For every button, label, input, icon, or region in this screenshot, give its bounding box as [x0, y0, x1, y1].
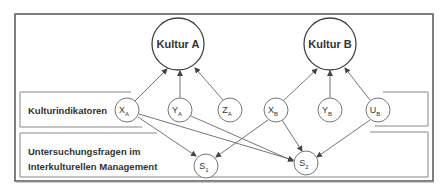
indicator-node-xb: XB: [264, 98, 288, 122]
questions-row-label-line2: Interkulturellen Management: [28, 161, 158, 172]
culture-b-label: Kultur B: [308, 38, 351, 50]
edges-to-culture: [135, 68, 370, 101]
question-node-s2: S2: [294, 151, 318, 175]
culture-node-a: Kultur A: [152, 18, 204, 70]
indicator-node-ub: UB: [366, 98, 390, 122]
questions-row-label-line1: Untersuchungsfragen im: [28, 146, 140, 157]
indicator-node-ya: YA: [168, 98, 192, 122]
indicators-row-label: Kulturindikatoren: [28, 105, 107, 116]
indicator-node-yb: YB: [318, 98, 342, 122]
culture-indicator-diagram: Kultur A Kultur B Kulturindikatoren Unte…: [0, 0, 446, 195]
culture-a-label: Kultur A: [157, 38, 200, 50]
indicator-node-xa: XA: [115, 98, 139, 122]
question-node-s1: S1: [194, 154, 218, 178]
indicator-node-za: ZA: [218, 98, 242, 122]
culture-node-b: Kultur B: [304, 18, 356, 70]
